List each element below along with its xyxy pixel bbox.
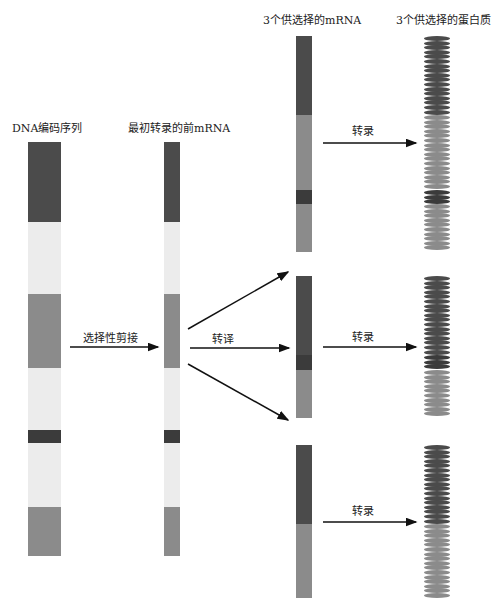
translation-label: 转译: [212, 334, 234, 346]
arrows-layer: [0, 0, 497, 613]
transcription-label-3: 转录: [352, 506, 374, 518]
translation-arrow-up: [188, 272, 288, 329]
splicing-label: 选择性剪接: [83, 333, 138, 345]
translation-arrow-down: [188, 364, 288, 420]
transcription-label-1: 转录: [352, 126, 374, 138]
transcription-label-2: 转录: [352, 332, 374, 344]
